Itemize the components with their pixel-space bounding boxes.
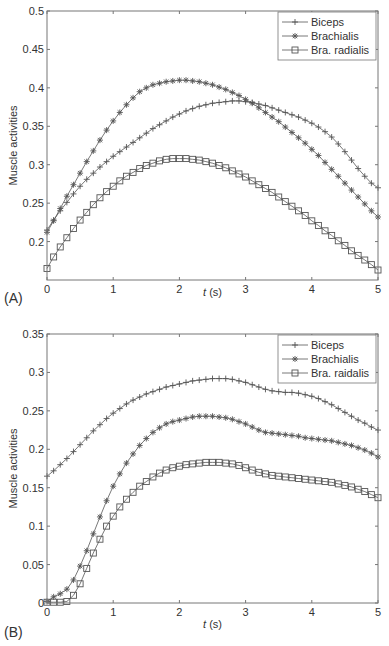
data-point: [196, 413, 202, 419]
data-point: [262, 386, 268, 392]
data-point: [302, 392, 308, 398]
data-point: [143, 436, 149, 442]
data-point: [157, 425, 163, 431]
data-point: [203, 413, 209, 419]
panel-a-legend: BicepsBrachialisBra. radialis: [278, 12, 376, 60]
x-tick-label: 5: [375, 606, 381, 618]
data-point: [117, 471, 123, 477]
figure: 0123450.20.250.30.350.40.450.5 Muscle ac…: [0, 0, 389, 646]
data-point: [90, 148, 96, 154]
data-point: [216, 99, 222, 105]
data-point: [282, 124, 288, 130]
data-point: [315, 124, 321, 130]
y-tick-label: 0.35: [23, 328, 44, 340]
data-point: [123, 401, 129, 407]
data-point: [309, 146, 315, 152]
data-point: [123, 144, 129, 150]
y-tick-label: 0.1: [29, 520, 44, 532]
data-point: [196, 79, 202, 85]
data-point: [110, 483, 116, 489]
data-point: [355, 417, 361, 423]
y-tick-label: 0.3: [29, 366, 44, 378]
data-point: [117, 149, 123, 155]
data-point: [216, 84, 222, 90]
data-point: [137, 442, 143, 448]
data-point: [368, 424, 374, 430]
data-point: [302, 140, 308, 146]
data-point: [282, 432, 288, 438]
y-tick-label: 0.2: [29, 443, 44, 455]
data-point: [322, 399, 328, 405]
data-point: [249, 424, 255, 430]
data-point: [203, 80, 209, 86]
legend-label: Bra. raidalis: [311, 367, 370, 379]
data-point: [335, 439, 341, 445]
x-tick-label: 3: [243, 606, 249, 618]
data-point: [223, 376, 229, 382]
data-point: [223, 415, 229, 421]
y-tick-label: 0.3: [29, 159, 44, 171]
data-point: [137, 89, 143, 95]
data-point: [190, 106, 196, 112]
data-point: [64, 193, 70, 199]
panel-b-label: (B): [4, 624, 23, 640]
data-point: [196, 377, 202, 383]
data-point: [170, 382, 176, 388]
data-point: [269, 388, 275, 394]
data-point: [276, 389, 282, 395]
data-point: [157, 122, 163, 128]
data-point: [349, 442, 355, 448]
data-point: [309, 436, 315, 442]
data-point: [335, 406, 341, 412]
data-point: [289, 112, 295, 118]
data-point: [216, 414, 222, 420]
data-point: [157, 386, 163, 392]
data-point: [143, 130, 149, 136]
data-point: [296, 135, 302, 141]
data-point: [322, 437, 328, 443]
data-point: [355, 194, 361, 200]
data-point: [97, 137, 103, 143]
legend-label: Brachialis: [311, 30, 359, 42]
data-point: [170, 114, 176, 120]
x-tick-label: 1: [110, 283, 116, 295]
data-point: [362, 201, 368, 207]
y-tick-label: 0.4: [29, 82, 44, 94]
data-point: [276, 431, 282, 437]
data-point: [256, 427, 262, 433]
panel-a-chart: 0123450.20.250.30.350.40.450.5 Muscle ac…: [4, 5, 381, 306]
data-point: [84, 159, 90, 165]
data-point: [117, 109, 123, 115]
data-point: [236, 419, 242, 425]
data-point: [150, 429, 156, 435]
data-point: [309, 393, 315, 399]
data-point: [97, 514, 103, 520]
data-point: [183, 379, 189, 385]
data-point: [157, 80, 163, 86]
data-point: [362, 447, 368, 453]
data-point: [57, 591, 63, 597]
y-tick-label: 0.2: [29, 236, 44, 248]
series-biceps: [44, 376, 381, 480]
data-point: [130, 139, 136, 145]
data-point: [190, 378, 196, 384]
data-point: [236, 93, 242, 99]
data-point: [110, 118, 116, 124]
legend-label: Brachialis: [311, 353, 359, 365]
data-point: [229, 376, 235, 382]
data-point: [51, 218, 57, 224]
data-point: [368, 208, 374, 214]
data-point: [362, 420, 368, 426]
data-point: [256, 384, 262, 390]
data-point: [269, 430, 275, 436]
y-tick-label: 0.25: [23, 197, 44, 209]
data-point: [315, 152, 321, 158]
data-point: [104, 498, 110, 504]
data-point: [329, 166, 335, 172]
data-point: [203, 102, 209, 108]
data-point: [243, 96, 249, 102]
data-point: [296, 114, 302, 120]
data-point: [183, 108, 189, 114]
data-point: [150, 126, 156, 132]
data-point: [210, 82, 216, 88]
